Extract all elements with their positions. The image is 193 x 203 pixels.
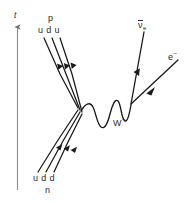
- antineutrino-label: νe: [138, 21, 146, 30]
- quark-line-d2: [46, 112, 80, 172]
- arrowhead-d3: [71, 147, 77, 153]
- diagram-canvas: [0, 0, 193, 203]
- neutron-quark-content-label: u d d: [33, 174, 55, 183]
- quark-line-d1: [52, 38, 80, 110]
- quark-line-u1: [44, 38, 78, 108]
- feynman-diagram-figure: t p u d u u d d n νe e− W−: [0, 0, 193, 203]
- arrowhead-u2: [71, 62, 77, 69]
- w-boson-symbol: W: [113, 118, 122, 128]
- neutron-label: n: [45, 186, 50, 195]
- proton-quark-content-label: u d u: [38, 26, 60, 35]
- neutron-quark-lines: [38, 110, 82, 172]
- electron-label: e−: [168, 53, 177, 62]
- w-boson-label: W−: [113, 119, 126, 128]
- time-axis-label: t: [14, 11, 17, 20]
- proton-quark-arrowheads: [57, 62, 77, 70]
- electron-charge-superscript: −: [173, 50, 177, 57]
- quark-line-d3: [54, 114, 82, 172]
- w-boson-charge-superscript: −: [122, 116, 126, 123]
- quark-line-u2: [60, 38, 82, 112]
- proton-label: p: [48, 14, 53, 23]
- antineutrino-flavor-subscript: e: [143, 25, 146, 31]
- arrowhead-u3: [56, 144, 62, 150]
- proton-quark-lines: [44, 38, 82, 112]
